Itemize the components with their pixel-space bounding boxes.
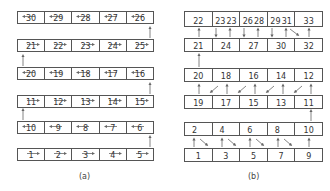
b-cell: 19 (185, 96, 213, 108)
b-row-2: 21 24 27 30 32 (184, 38, 323, 52)
arrow-up-icon (147, 26, 153, 38)
b-cell: 27 (240, 39, 268, 51)
a-cell: 6 (127, 122, 153, 133)
b-cell: 9 (295, 149, 322, 161)
a-cell: 2 (45, 149, 72, 160)
a-cell: 10 (18, 122, 45, 133)
a-cell: 15 (127, 96, 153, 107)
b-cell: 7 (268, 149, 296, 161)
caption-a: (a) (79, 172, 90, 181)
a-cell: 23 (72, 40, 99, 51)
b-cell: 14 (268, 69, 296, 81)
b-cell: 2931 (268, 12, 296, 26)
a-cell: 12 (45, 96, 72, 107)
a-row-6: 1 2 3 4 5 (17, 148, 154, 161)
a-cell: 17 (100, 68, 127, 79)
b-cell: 15 (240, 96, 268, 108)
b-cell: 13 (268, 96, 296, 108)
a-cell: 9 (45, 122, 72, 133)
arrow-up-icon (20, 108, 26, 120)
a-cell: 11 (18, 96, 45, 107)
b-cell: 10 (295, 123, 322, 135)
a-cell: 25 (127, 40, 153, 51)
b-row-3: 20 18 16 14 12 (184, 68, 323, 82)
a-cell: 29 (45, 12, 72, 23)
arrow-up-icon (147, 135, 153, 147)
b-cell: 22 (185, 12, 213, 26)
a-cell: 30 (18, 12, 45, 23)
b-cell: 20 (185, 69, 213, 81)
a-cell: 13 (72, 96, 99, 107)
b-cell: 8 (268, 123, 296, 135)
a-cell: 18 (72, 68, 99, 79)
b-cell: 1 (185, 149, 213, 161)
a-row-5: 10 9 8 7 6 (17, 121, 154, 134)
b-cell: 17 (213, 96, 241, 108)
b-cell: 30 (268, 39, 296, 51)
b-cell: 24 (213, 39, 241, 51)
b-cell: 5 (240, 149, 268, 161)
b-row-6: 1 3 5 7 9 (184, 148, 323, 162)
a-cell: 5 (127, 149, 153, 160)
b-row-4: 19 17 15 13 11 (184, 95, 323, 109)
a-cell: 16 (127, 68, 153, 79)
a-cell: 7 (100, 122, 127, 133)
a-cell: 3 (72, 149, 99, 160)
b-row-1: 22 2323 2628 2931 33 (184, 11, 323, 27)
a-cell: 22 (45, 40, 72, 51)
b-cell: 2323 (213, 12, 241, 26)
b-cell: 12 (295, 69, 322, 81)
b-cell: 11 (295, 96, 322, 108)
b-cell: 3 (213, 149, 241, 161)
a-cell: 14 (100, 96, 127, 107)
a-cell: 27 (100, 12, 127, 23)
a-cell: 20 (18, 68, 45, 79)
arrow-up-icon (147, 82, 153, 94)
b-cell: 4 (213, 123, 241, 135)
a-cell: 26 (127, 12, 153, 23)
a-cell: 8 (72, 122, 99, 133)
b-cell: 33 (295, 12, 322, 26)
a-cell: 1 (18, 149, 45, 160)
a-cell: 4 (100, 149, 127, 160)
a-cell: 19 (45, 68, 72, 79)
a-cell: 28 (72, 12, 99, 23)
connector-arrows (184, 136, 323, 148)
a-cell: 24 (100, 40, 127, 51)
a-row-3: 20 19 18 17 16 (17, 67, 154, 80)
b-cell: 2628 (240, 12, 268, 26)
b-row-5: 2 4 6 8 10 (184, 122, 323, 136)
b-cell: 16 (240, 69, 268, 81)
caption-b: (b) (248, 172, 259, 181)
arrow-up-icon (308, 109, 314, 121)
connector-arrows (184, 27, 323, 38)
a-row-1: 30 29 28 27 26 (17, 11, 154, 24)
connector-arrows (184, 82, 323, 95)
b-cell: 32 (295, 39, 322, 51)
a-row-2: 21 22 23 24 25 (17, 39, 154, 52)
b-cell: 2 (185, 123, 213, 135)
arrow-up-icon (196, 53, 202, 67)
arrow-up-icon (20, 54, 26, 66)
b-cell: 18 (213, 69, 241, 81)
b-cell: 6 (240, 123, 268, 135)
a-cell: 21 (18, 40, 45, 51)
a-row-4: 11 12 13 14 15 (17, 95, 154, 108)
b-cell: 21 (185, 39, 213, 51)
